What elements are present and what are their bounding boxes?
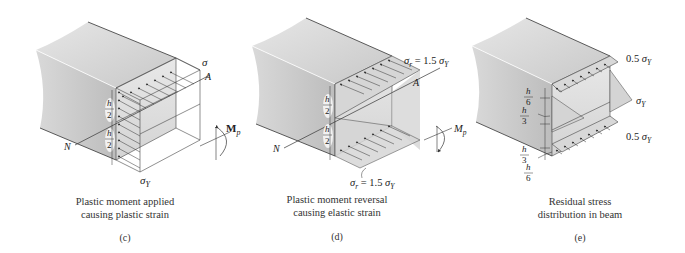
caption-d-line1: Plastic moment reversal — [262, 193, 412, 206]
panel-d — [252, 18, 452, 178]
caption-c: Plastic moment applied causing plastic s… — [50, 195, 200, 221]
residual-tri-right — [610, 70, 632, 112]
label-c-axis-end: A — [204, 71, 212, 82]
label-e-stress-mid: σY — [636, 95, 646, 109]
panel-e — [472, 18, 632, 160]
label-d-stress-top: σr = 1.5 σY — [404, 55, 449, 69]
svg-text:h: h — [522, 144, 527, 154]
label-d-moment: Mp — [453, 123, 467, 137]
label-d-axis-start: N — [272, 143, 281, 154]
label-e-stress-top: 0.5 σY — [626, 53, 652, 67]
svg-text:h: h — [107, 128, 112, 138]
stress-block-outline — [176, 58, 200, 140]
svg-text:2: 2 — [107, 110, 112, 120]
label-d-stress-bottom: σr = 1.5 σY — [350, 177, 395, 191]
panel-tag-e: (e) — [555, 232, 605, 243]
svg-text:2: 2 — [325, 136, 330, 146]
caption-d: Plastic moment reversal causing elastic … — [262, 193, 412, 219]
svg-text:6: 6 — [526, 97, 531, 107]
svg-text:h: h — [107, 98, 112, 108]
svg-text:2: 2 — [325, 106, 330, 116]
svg-text:h: h — [325, 124, 330, 134]
svg-text:h: h — [526, 86, 531, 96]
caption-e: Residual stress distribution in beam — [505, 195, 655, 221]
caption-e-line2: distribution in beam — [505, 208, 655, 221]
label-d-axis-end: A — [412, 77, 420, 88]
label-c-moment: Mp — [226, 122, 240, 137]
label-e-stress-bottom: 0.5 σY — [626, 131, 652, 145]
svg-text:h: h — [325, 94, 330, 104]
caption-c-line2: causing plastic strain — [50, 208, 200, 221]
svg-text:6: 6 — [526, 173, 531, 183]
label-c-stress-bottom: σY — [140, 174, 151, 189]
panel-tag-c: (c) — [100, 232, 150, 243]
caption-e-line1: Residual stress — [505, 195, 655, 208]
svg-text:3: 3 — [522, 116, 527, 126]
label-c-axis-start: N — [63, 141, 72, 152]
caption-c-line1: Plastic moment applied — [50, 195, 200, 208]
label-c-stress-top: σ — [202, 56, 208, 68]
caption-d-line2: causing elastic strain — [262, 206, 412, 219]
svg-text:2: 2 — [107, 140, 112, 150]
svg-text:h: h — [526, 162, 531, 172]
svg-text:h: h — [522, 105, 527, 115]
panel-tag-d: (d) — [312, 231, 362, 242]
